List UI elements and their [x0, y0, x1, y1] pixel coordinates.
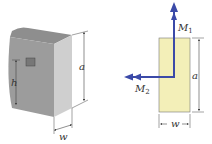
label-w-left: w: [59, 131, 68, 142]
block-front-face: [54, 35, 72, 117]
label-a-left: a: [79, 61, 85, 72]
label-w-right: w: [171, 118, 180, 129]
cross-section: [159, 38, 204, 128]
window-opening: [26, 58, 35, 66]
label-m2: M2: [134, 83, 150, 96]
label-h: h: [11, 77, 17, 88]
block-3d: [8, 27, 88, 134]
diagram-canvas: h a w M1 M2 a w: [0, 0, 212, 144]
dim-w-line-left: [55, 125, 71, 130]
label-a-right: a: [192, 70, 198, 81]
label-m1: M1: [177, 22, 193, 35]
